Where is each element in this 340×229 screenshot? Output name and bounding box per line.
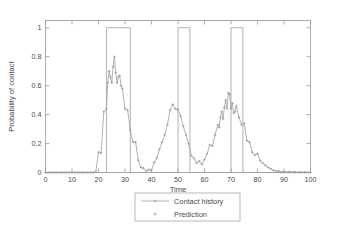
legend-label: Contact history: [174, 197, 224, 206]
x-tick-label: 90: [280, 175, 288, 184]
x-axis-title: Time: [170, 185, 187, 194]
x-tick-label: 50: [174, 175, 182, 184]
x-tick-label: 20: [95, 175, 103, 184]
x-tick-label: 60: [201, 175, 209, 184]
chart-legend[interactable]: Contact historyPrediction: [135, 193, 240, 221]
x-tick-label: 100: [305, 175, 317, 184]
y-tick-label: 0: [38, 168, 42, 177]
x-tick-label: 40: [148, 175, 156, 184]
y-axis-tick-labels: 00.20.40.60.81: [32, 23, 42, 177]
y-tick-label: 0.2: [32, 139, 42, 148]
x-tick-label: 80: [254, 175, 262, 184]
y-tick-label: 0.8: [32, 52, 42, 61]
y-tick-label: 0.6: [32, 81, 42, 90]
y-tick-label: 0.4: [32, 110, 42, 119]
legend-label: Prediction: [174, 210, 207, 219]
x-axis-tick-labels: 0102030405060708090100: [44, 175, 317, 184]
contact-history-line: [46, 28, 311, 173]
figure-container: 0102030405060708090100 00.20.40.60.81 Ti…: [0, 0, 340, 229]
x-tick-label: 30: [121, 175, 129, 184]
y-axis-title: Probability of contact: [7, 60, 16, 131]
probability-of-contact-chart: 0102030405060708090100 00.20.40.60.81 Ti…: [0, 0, 340, 229]
x-tick-label: 0: [44, 175, 48, 184]
y-tick-label: 1: [38, 23, 42, 32]
x-tick-label: 10: [68, 175, 76, 184]
series-contact-history: [46, 28, 311, 173]
x-tick-label: 70: [227, 175, 235, 184]
